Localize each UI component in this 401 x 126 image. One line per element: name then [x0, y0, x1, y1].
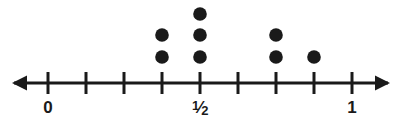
- data-dot-2-0: [269, 50, 283, 64]
- dot-plot-figure: 01⁄21: [0, 0, 401, 126]
- axis-arrowhead-left: [12, 76, 27, 91]
- data-dot-1-2: [193, 7, 207, 21]
- data-dot-0-0: [155, 50, 169, 64]
- fraction-denominator: 2: [201, 103, 208, 118]
- data-dot-0-1: [155, 28, 169, 42]
- axis-label-1: 1: [347, 99, 356, 116]
- axis-label-0: 0: [43, 99, 52, 116]
- data-dot-3-0: [307, 50, 321, 64]
- axis-arrowhead-right: [375, 76, 390, 91]
- data-dots-group: [155, 7, 321, 64]
- data-dot-1-0: [193, 50, 207, 64]
- data-dot-2-1: [269, 28, 283, 42]
- fraction-one-half: 1⁄2: [192, 99, 208, 116]
- fraction-numerator: 1: [192, 98, 199, 113]
- data-dot-1-1: [193, 28, 207, 42]
- axis-label-half: 1⁄2: [192, 99, 208, 117]
